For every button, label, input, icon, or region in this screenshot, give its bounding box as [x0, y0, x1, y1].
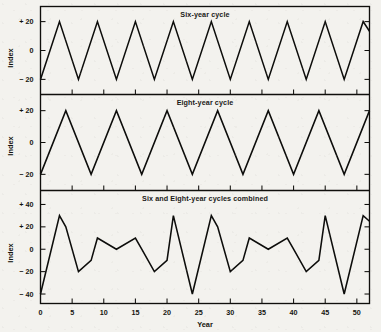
x-tick-label: 0	[39, 308, 43, 317]
x-tick-label: 15	[131, 308, 139, 317]
y-tick-label: + 20	[19, 222, 33, 231]
x-axis-title: Year	[197, 320, 213, 329]
x-tick-label: 35	[258, 308, 266, 317]
panel-title-eight-year: Eight-year cycle	[177, 98, 234, 107]
x-tick-label: 30	[226, 308, 234, 317]
cycles-figure: Six-year cycle Index + 200− 20 Eight-yea…	[0, 0, 381, 332]
x-tick-label: 5	[70, 308, 74, 317]
y-axis-title-panel3: Index	[6, 242, 15, 262]
x-tick-label: 25	[195, 308, 203, 317]
y-tick-label: − 20	[19, 75, 33, 84]
y-tick-label: 0	[30, 138, 34, 147]
x-tick-label: 40	[290, 308, 298, 317]
panel-title-six-year: Six-year cycle	[180, 10, 229, 19]
x-tick-label: 45	[321, 308, 329, 317]
figure-background	[0, 0, 381, 332]
x-tick-label: 20	[163, 308, 171, 317]
y-tick-label: 0	[30, 245, 34, 254]
x-tick-label: 10	[100, 308, 108, 317]
y-tick-label: + 20	[19, 106, 33, 115]
y-tick-label: + 40	[19, 200, 33, 209]
y-tick-label: 0	[30, 46, 34, 55]
y-tick-label: + 20	[19, 17, 33, 26]
y-tick-label: − 20	[19, 267, 33, 276]
y-tick-label: − 40	[19, 290, 33, 299]
x-tick-label: 50	[353, 308, 361, 317]
y-axis-title-panel2: Index	[6, 135, 15, 155]
y-tick-label: − 20	[19, 170, 33, 179]
y-axis-title-panel1: Index	[6, 47, 15, 67]
panel-title-combined: Six and Eight-year cycles combined	[142, 194, 268, 203]
